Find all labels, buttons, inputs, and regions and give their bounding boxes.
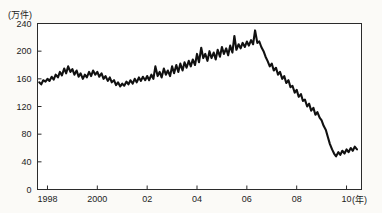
y-axis-tick-label: 160 [16,74,31,84]
plot-area-frame [38,24,362,190]
x-axis-tick-label: 2000 [87,194,107,204]
y-axis-tick-label: 200 [16,46,31,56]
x-axis-tick-label: 1998 [37,194,57,204]
x-axis-tick-label: 04 [192,194,202,204]
x-axis-tick-label: 08 [292,194,302,204]
x-axis-tick-label: 10 [342,194,352,204]
x-axis-tick-label: 02 [142,194,152,204]
chart-figure: (万件) (年) 04080120160200240 1998200002040… [0,0,382,213]
y-axis-tick-label: 120 [16,102,31,112]
x-axis-tick-label: 06 [242,194,252,204]
y-axis-tick-label: 80 [21,129,31,139]
y-axis-tick-label: 0 [26,185,31,195]
y-axis-tick-label: 240 [16,19,31,29]
y-axis-tick-label: 40 [21,157,31,167]
line-chart-svg: 04080120160200240 199820000204060810 [0,0,382,213]
